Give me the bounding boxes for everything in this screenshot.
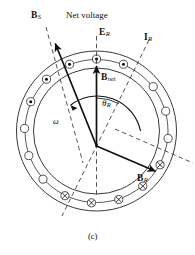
conductor-slot-empty [20,124,28,132]
conductor-slot-dot [27,98,35,106]
label-theta-r: θR [102,99,111,109]
slot-dot-marker [68,63,71,66]
conductor-slot-empty [39,175,47,183]
conductor-slot-dot [119,60,127,68]
slot-dot-marker [45,78,48,81]
label-b-net: Bnet [101,73,116,83]
label-b-r-sub: R [143,176,147,183]
conductor-slot-empty [25,152,33,160]
label-theta-r-sub: R [106,101,110,108]
vector-origin-point [95,145,97,147]
conductor-slot-cross [87,199,95,207]
label-b-r: BR [137,174,148,184]
label-b-s: BS [31,11,41,21]
label-i-r-sub: R [148,35,152,42]
vector-b-r [97,146,156,171]
axis-line-bs [46,27,83,163]
slot-dot-marker [122,63,125,66]
label-e-r-sub: R [105,30,109,37]
label-e-r: ER [99,28,110,38]
label-i-r: IR [144,33,152,43]
conductor-slot-cross [61,192,69,200]
conductor-slot-cross [115,195,123,203]
machine-cross-section-figure [0,0,195,255]
axis-line-ir [62,40,149,216]
conductor-slot-dot [42,75,50,83]
vector-b-s [56,44,97,146]
conductor-slot-empty [162,107,170,115]
conductor-slot-empty [164,134,172,142]
label-omega: ω [53,118,59,126]
conductor-slot-empty [149,83,157,91]
conductor-slot-dot [65,60,73,68]
label-b-s-sub: S [37,13,41,20]
omega-arrowhead [71,105,78,111]
slot-dot-marker [29,100,32,103]
label-net-voltage: Net voltage [66,11,108,20]
label-b-net-sub: net [107,75,115,82]
figure-caption: (c) [88,232,97,241]
conductor-slot-cross [156,161,164,169]
